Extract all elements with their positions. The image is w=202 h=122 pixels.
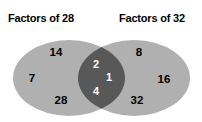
member-left-only-7: 7 [29, 72, 35, 84]
member-left-only-28: 28 [55, 94, 68, 106]
member-intersection-4: 4 [93, 85, 99, 97]
member-right-only-32: 32 [131, 94, 144, 106]
venn-diagram: Factors of 28 Factors of 32 147282148163… [0, 0, 202, 122]
member-left-only-14: 14 [50, 46, 63, 58]
member-intersection-2: 2 [93, 58, 99, 70]
member-right-only-16: 16 [158, 73, 171, 85]
member-right-only-8: 8 [136, 46, 142, 58]
member-intersection-1: 1 [106, 71, 112, 83]
venn-shapes [0, 0, 202, 122]
